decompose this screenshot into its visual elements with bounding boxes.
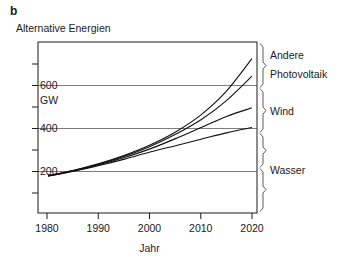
x-tick-label-1990: 1990 (87, 222, 111, 234)
chart-figure: b Alternative Energien 600 GW 400 200 (0, 0, 342, 268)
bracket-andere (260, 44, 266, 88)
x-axis-ticks (47, 213, 252, 219)
curve-andere (48, 59, 252, 176)
plot-area: 600 GW 400 200 1980 1990 2000 2010 2020 … (0, 0, 342, 268)
curve-wind (48, 108, 252, 176)
data-curves (48, 59, 252, 177)
plot-frame (38, 42, 257, 213)
x-tick-label-2010: 2010 (189, 222, 213, 234)
series-label-wasser: Wasser (270, 164, 306, 176)
x-tick-label-1980: 1980 (35, 222, 59, 234)
bracket-photovoltaik (260, 89, 266, 133)
x-tick-label-2020: 2020 (240, 222, 264, 234)
x-axis-title: Jahr (139, 242, 160, 254)
series-label-wind: Wind (270, 105, 294, 117)
series-label-andere: Andere (270, 49, 304, 61)
series-label-photovoltaik: Photovoltaik (270, 68, 328, 80)
bracket-wind (260, 134, 266, 168)
gridlines (38, 86, 257, 172)
y-tick-label-400: 400 (40, 122, 58, 134)
y-axis-ticks (32, 64, 38, 193)
y-tick-label-600: 600 (40, 79, 58, 91)
x-tick-label-2000: 2000 (138, 222, 162, 234)
curve-photovoltaik (48, 76, 252, 176)
bracket-wasser (260, 169, 266, 212)
series-brackets (260, 44, 266, 212)
y-axis-unit: GW (40, 94, 58, 106)
